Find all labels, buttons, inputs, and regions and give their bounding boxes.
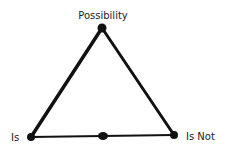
possibility-triangle-diagram: Possibility Is Is Not	[0, 0, 227, 151]
edge-possibility-to-is-not	[102, 28, 174, 135]
label-is-not: Is Not	[186, 131, 215, 142]
edge-is-to-possibility	[31, 28, 102, 137]
node-is-not	[170, 131, 178, 139]
node-possibility	[98, 24, 107, 33]
midpoint-marker	[98, 132, 108, 140]
label-is: Is	[11, 132, 19, 143]
label-possibility: Possibility	[78, 10, 128, 21]
node-is	[27, 133, 35, 141]
